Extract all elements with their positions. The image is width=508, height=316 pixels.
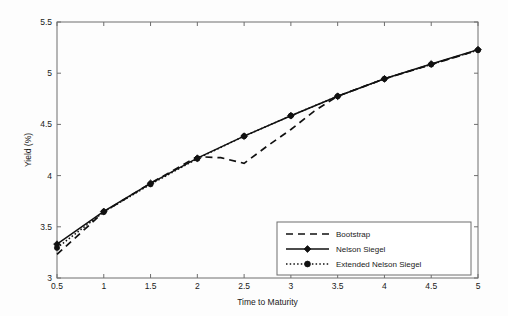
y-tick-label: 5.5 bbox=[40, 17, 52, 27]
y-tick-label: 4.5 bbox=[40, 119, 52, 129]
x-tick-label: 3.5 bbox=[332, 281, 344, 291]
x-tick-label: 0.5 bbox=[51, 281, 63, 291]
y-tick-label: 3 bbox=[47, 273, 52, 283]
chart-legend: BootstrapNelson SiegelExtended Nelson Si… bbox=[277, 222, 471, 275]
legend-label: Extended Nelson Siegel bbox=[336, 260, 422, 269]
x-tick-label: 1.5 bbox=[145, 281, 157, 291]
legend-label: Nelson Siegel bbox=[336, 245, 386, 254]
x-tick-label: 3 bbox=[289, 281, 294, 291]
x-tick-label: 5 bbox=[476, 281, 481, 291]
x-tick-label: 2.5 bbox=[238, 281, 250, 291]
data-point-marker-extended-nelson-siegel bbox=[148, 182, 153, 187]
y-tick-label: 4 bbox=[47, 171, 52, 181]
axis-titles: Time to MaturityYield (%) bbox=[23, 133, 299, 307]
series-line-nelson-siegel bbox=[57, 50, 478, 245]
data-point-marker-extended-nelson-siegel bbox=[382, 76, 387, 81]
data-point-marker-extended-nelson-siegel bbox=[429, 62, 434, 67]
x-tick-label: 4.5 bbox=[425, 281, 437, 291]
data-point-marker-extended-nelson-siegel bbox=[101, 209, 106, 214]
x-axis-title: Time to Maturity bbox=[237, 297, 298, 307]
data-point-marker-extended-nelson-siegel bbox=[195, 156, 200, 161]
data-point-marker-extended-nelson-siegel bbox=[475, 48, 480, 53]
x-axis-tick-labels: 0.511.522.533.544.55 bbox=[51, 281, 481, 291]
y-axis-title: Yield (%) bbox=[23, 133, 33, 167]
chart-canvas: 0.511.522.533.544.55 33.544.555.5 Time t… bbox=[0, 0, 508, 316]
data-point-marker-extended-nelson-siegel bbox=[242, 134, 247, 139]
legend-label: Bootstrap bbox=[336, 230, 371, 239]
data-point-marker-extended-nelson-siegel bbox=[54, 245, 59, 250]
x-tick-label: 2 bbox=[195, 281, 200, 291]
y-tick-label: 5 bbox=[47, 68, 52, 78]
data-point-marker-extended-nelson-siegel bbox=[288, 113, 293, 118]
series-line-extended-nelson-siegel bbox=[57, 50, 478, 248]
y-axis-tick-labels: 33.544.555.5 bbox=[40, 17, 52, 283]
x-tick-label: 4 bbox=[382, 281, 387, 291]
data-point-marker-extended-nelson-siegel bbox=[335, 94, 340, 99]
legend-marker-circle bbox=[305, 261, 311, 267]
x-tick-label: 1 bbox=[101, 281, 106, 291]
y-tick-label: 3.5 bbox=[40, 222, 52, 232]
yield-curve-figure: 0.511.522.533.544.55 33.544.555.5 Time t… bbox=[0, 0, 508, 316]
